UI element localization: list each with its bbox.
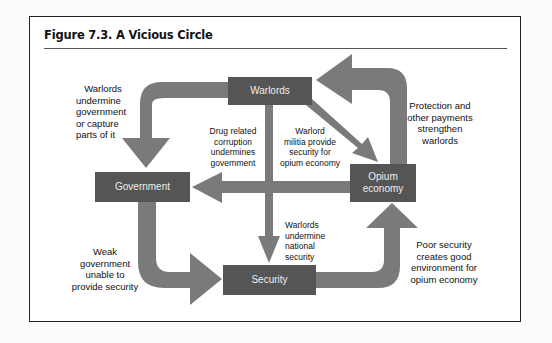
label-line: strengthen: [402, 123, 478, 135]
label-line: government: [204, 158, 262, 169]
label-drug-corruption: Drug related corruption undermines gover…: [204, 126, 262, 168]
label-line: Poor security: [402, 239, 486, 251]
label-line: Drug related: [204, 126, 262, 137]
label-line: provide security: [64, 281, 146, 293]
label-line: Protection and: [402, 100, 478, 112]
label-line: government: [64, 258, 146, 270]
arrow-government-to-security: [138, 202, 222, 305]
label-line: other payments: [402, 112, 478, 124]
label-line: undermines: [204, 147, 262, 158]
label-line: environment for: [402, 262, 486, 274]
label-line: national: [285, 241, 335, 252]
label-line: Warlords: [76, 83, 130, 95]
label-line: or capture: [76, 118, 130, 130]
label-poor-security: Poor security creates good environment f…: [402, 239, 486, 285]
label-line: parts of it: [76, 129, 130, 141]
label-line: undermine: [76, 95, 130, 107]
label-line: corruption: [204, 137, 262, 148]
label-line: security for: [275, 147, 345, 158]
label-line: Warlords: [285, 220, 335, 231]
label-line: opium economy: [402, 274, 486, 286]
label-warlords-undermine-government: Warlords undermine government or capture…: [76, 83, 130, 141]
label-national-security: Warlords undermine national security: [285, 220, 335, 262]
label-line: government: [76, 106, 130, 118]
node-warlords: Warlords: [228, 77, 312, 105]
label-warlord-militia: Warlord militia provide security for opi…: [275, 126, 345, 168]
label-weak-government: Weak government unable to provide securi…: [64, 246, 146, 292]
label-line: warlords: [402, 135, 478, 147]
node-government: Government: [95, 172, 190, 202]
node-security: Security: [223, 265, 316, 295]
node-opium-economy: Opium economy: [350, 164, 416, 202]
label-line: security: [285, 252, 335, 263]
label-line: unable to: [64, 269, 146, 281]
label-line: undermine: [285, 231, 335, 242]
label-line: Weak: [64, 246, 146, 258]
label-line: militia provide: [275, 137, 345, 148]
label-line: opium economy: [275, 158, 345, 169]
label-line: Warlord: [275, 126, 345, 137]
label-protection-payments: Protection and other payments strengthen…: [402, 100, 478, 146]
label-line: creates good: [402, 251, 486, 263]
